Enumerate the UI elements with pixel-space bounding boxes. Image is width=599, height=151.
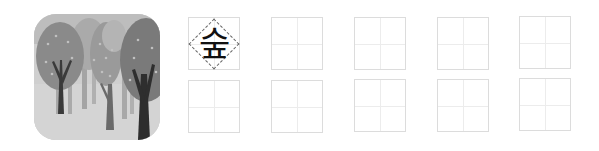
practice-cell[interactable] — [188, 80, 240, 133]
practice-cell[interactable] — [437, 17, 489, 70]
guide-line-horizontal — [520, 105, 570, 106]
guide-line-horizontal — [355, 106, 405, 107]
practice-cell[interactable] — [519, 16, 571, 69]
practice-cell[interactable] — [437, 79, 489, 132]
guide-line-horizontal — [438, 106, 488, 107]
example-character: 숲 — [189, 18, 239, 69]
practice-cell[interactable] — [271, 17, 323, 70]
guide-line-horizontal — [272, 44, 322, 45]
guide-line-horizontal — [272, 107, 322, 108]
practice-cell[interactable] — [354, 79, 406, 132]
guide-line-horizontal — [520, 43, 570, 44]
practice-cell[interactable] — [271, 80, 323, 133]
forest-illustration — [34, 14, 160, 140]
guide-line-horizontal — [355, 44, 405, 45]
practice-cell[interactable] — [519, 78, 571, 131]
practice-cell-example: 숲 — [188, 17, 240, 70]
forest-tree-icon — [34, 14, 160, 140]
guide-line-horizontal — [189, 107, 239, 108]
practice-cell[interactable] — [354, 17, 406, 70]
guide-line-horizontal — [438, 44, 488, 45]
